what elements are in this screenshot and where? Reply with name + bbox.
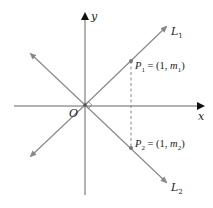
point-p1-label: P1 = (1, m1) <box>134 60 185 74</box>
line-l2-label: L2 <box>170 181 183 196</box>
point-p2-label: P2 = (1, m2) <box>134 138 185 152</box>
line-l1-label: L1 <box>170 25 183 40</box>
origin-dot <box>83 103 87 107</box>
x-axis-label: x <box>198 110 205 123</box>
origin-label: O <box>69 107 78 120</box>
point-p1 <box>129 59 133 63</box>
point-p2 <box>129 146 133 150</box>
diagram-canvas: y x O L1 L2 P1 = (1, m1) P2 = (1, m2) <box>0 0 213 208</box>
y-axis-label: y <box>90 10 98 23</box>
line-l2-extension <box>31 54 85 105</box>
